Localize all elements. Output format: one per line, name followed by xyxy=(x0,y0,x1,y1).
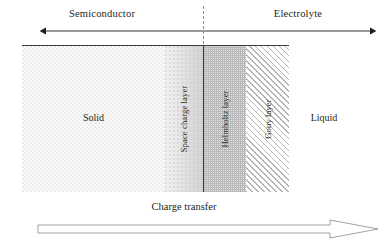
region-label-helmholtz-wrap: Helmholtz layer xyxy=(204,45,246,192)
semiconductor-electrolyte-interface-diagram: Semiconductor Electrolyte Solid Liquid S… xyxy=(0,0,392,249)
charge-transfer-arrow xyxy=(34,216,382,242)
region-label-helmholtz-layer: Helmholtz layer xyxy=(220,90,230,147)
region-label-gouy-wrap: Gouy layer xyxy=(246,45,289,192)
top-label-semiconductor: Semiconductor xyxy=(0,8,204,19)
charge-transfer-label: Charge transfer xyxy=(34,201,334,212)
region-label-gouy-layer: Gouy layer xyxy=(262,99,272,138)
region-label-space-charge-wrap: Space charge layer xyxy=(165,45,203,192)
interface-dashed-divider xyxy=(203,6,204,44)
region-label-liquid: Liquid xyxy=(289,112,359,123)
region-label-solid: Solid xyxy=(22,112,165,123)
top-label-electrolyte: Electrolyte xyxy=(204,8,392,19)
semiconductor-electrolyte-span-arrow xyxy=(40,24,376,38)
region-label-space-charge-layer: Space charge layer xyxy=(179,85,189,152)
